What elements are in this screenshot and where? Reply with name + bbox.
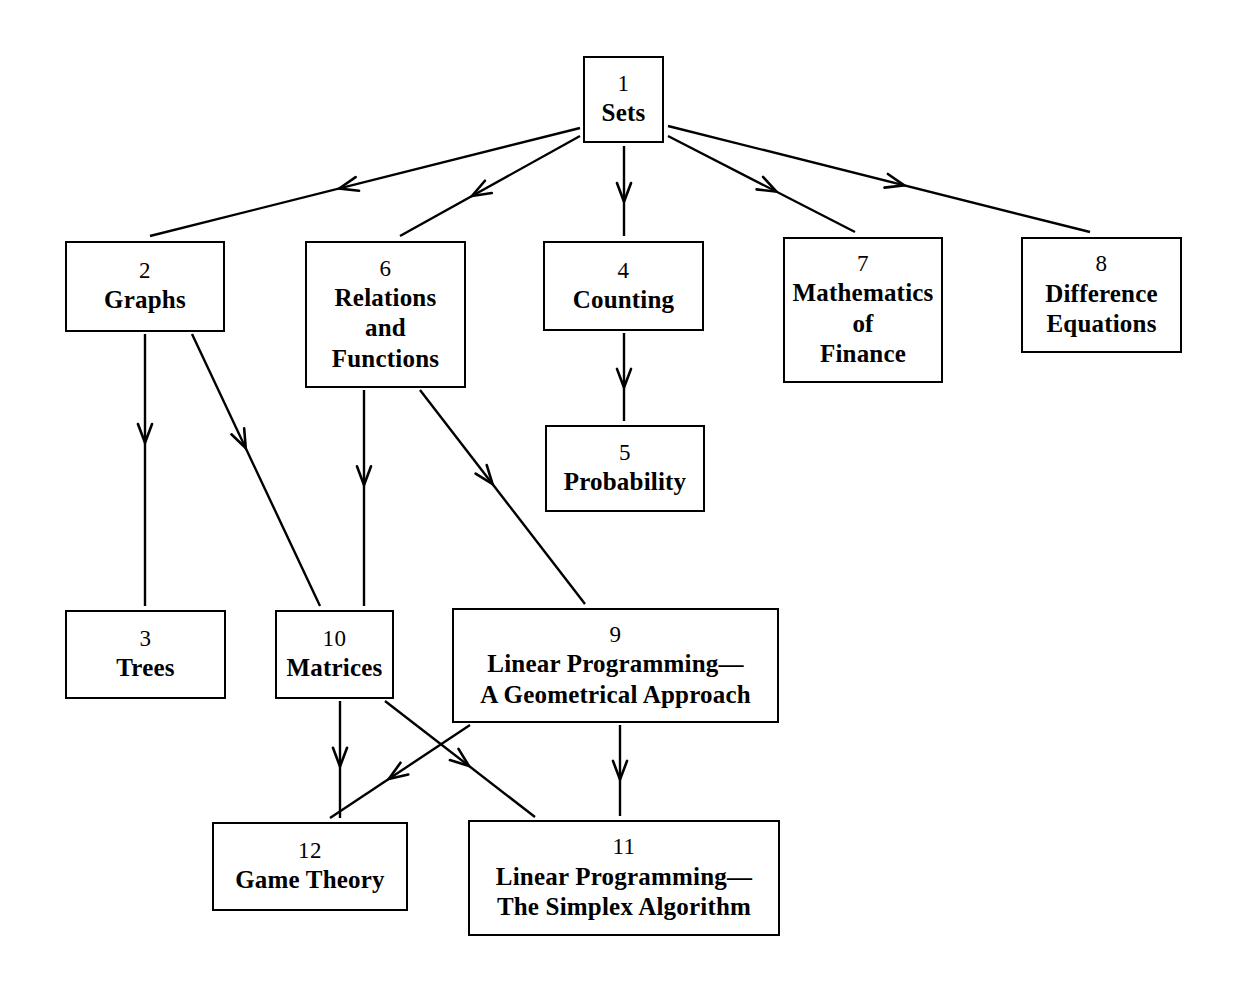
node-number: 3 bbox=[140, 625, 152, 653]
edge-n2-to-n3 bbox=[138, 334, 152, 606]
arrowhead-icon bbox=[613, 761, 627, 780]
arrowhead-icon bbox=[231, 428, 245, 448]
arrowhead-icon bbox=[617, 369, 631, 388]
edge-line bbox=[400, 136, 580, 236]
arrowhead-icon bbox=[339, 177, 359, 191]
node-box-11[interactable]: 11Linear Programming— The Simplex Algori… bbox=[468, 820, 780, 936]
arrowhead-icon bbox=[389, 763, 408, 779]
node-box-4[interactable]: 4Counting bbox=[543, 241, 704, 331]
node-number: 9 bbox=[610, 621, 622, 649]
edge-n1-to-n4 bbox=[617, 146, 631, 236]
arrowhead-icon bbox=[333, 748, 347, 767]
node-number: 1 bbox=[618, 70, 630, 98]
node-box-2[interactable]: 2Graphs bbox=[65, 241, 225, 332]
node-number: 11 bbox=[612, 833, 635, 861]
node-title: Counting bbox=[573, 285, 675, 316]
node-title: Trees bbox=[116, 653, 174, 684]
node-title: Linear Programming— The Simplex Algorith… bbox=[496, 862, 752, 923]
edge-line bbox=[668, 126, 1090, 232]
edge-n10-to-n12 bbox=[333, 701, 347, 818]
edge-n1-to-n6 bbox=[400, 136, 580, 236]
edge-n9-to-n12 bbox=[330, 725, 470, 818]
node-title: Relations and Functions bbox=[332, 283, 439, 375]
node-title: Sets bbox=[602, 98, 646, 129]
node-number: 2 bbox=[139, 257, 151, 285]
node-box-8[interactable]: 8Difference Equations bbox=[1021, 237, 1182, 353]
node-box-5[interactable]: 5Probability bbox=[545, 425, 705, 512]
node-title: Game Theory bbox=[235, 865, 385, 896]
node-number: 4 bbox=[618, 257, 630, 285]
node-number: 6 bbox=[380, 255, 392, 283]
edge-n1-to-n8 bbox=[668, 126, 1090, 232]
node-title: Matrices bbox=[287, 653, 383, 684]
chapter-dependency-diagram: 1Sets2Graphs6Relations and Functions4Cou… bbox=[0, 0, 1245, 990]
node-box-6[interactable]: 6Relations and Functions bbox=[305, 241, 466, 388]
arrowhead-icon bbox=[757, 177, 777, 192]
edge-n4-to-n5 bbox=[617, 333, 631, 421]
node-box-12[interactable]: 12Game Theory bbox=[212, 822, 408, 911]
node-title: Difference Equations bbox=[1045, 279, 1158, 340]
edge-n9-to-n11 bbox=[613, 725, 627, 816]
edge-n1-to-n7 bbox=[668, 136, 855, 232]
node-box-3[interactable]: 3Trees bbox=[65, 610, 226, 699]
node-number: 8 bbox=[1096, 250, 1108, 278]
edge-n1-to-n2 bbox=[150, 128, 580, 236]
arrowhead-icon bbox=[357, 466, 371, 485]
arrowhead-icon bbox=[138, 424, 152, 443]
node-number: 12 bbox=[298, 837, 322, 865]
edge-n6-to-n10 bbox=[357, 390, 371, 606]
node-title: Probability bbox=[564, 467, 687, 498]
edge-n2-to-n10 bbox=[192, 334, 320, 606]
arrowhead-icon bbox=[472, 181, 492, 196]
edge-line bbox=[668, 136, 855, 232]
node-box-10[interactable]: 10Matrices bbox=[275, 610, 394, 699]
node-title: Graphs bbox=[104, 285, 186, 316]
edge-line bbox=[150, 128, 580, 236]
edge-line bbox=[192, 334, 320, 606]
arrowhead-icon bbox=[884, 174, 904, 188]
node-box-7[interactable]: 7Mathematics of Finance bbox=[783, 237, 943, 383]
node-title: Mathematics of Finance bbox=[792, 278, 933, 370]
node-title: Linear Programming— A Geometrical Approa… bbox=[480, 649, 751, 710]
arrowhead-icon bbox=[450, 749, 469, 766]
arrowhead-icon bbox=[617, 183, 631, 202]
node-number: 5 bbox=[619, 439, 631, 467]
arrowhead-icon bbox=[476, 465, 493, 484]
node-number: 7 bbox=[857, 250, 869, 278]
node-number: 10 bbox=[323, 625, 347, 653]
node-box-1[interactable]: 1Sets bbox=[583, 56, 664, 143]
edge-line bbox=[330, 725, 470, 818]
node-box-9[interactable]: 9Linear Programming— A Geometrical Appro… bbox=[452, 608, 779, 723]
